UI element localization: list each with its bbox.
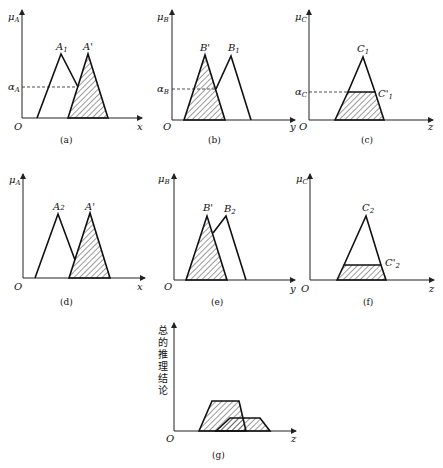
shape2-label: C'2 — [385, 257, 400, 270]
x-axis-label: z — [427, 121, 434, 132]
svg-text:的: 的 — [158, 336, 168, 348]
x-axis-label: z — [428, 283, 435, 294]
y-axis-label: μA — [9, 174, 21, 187]
shape2-label: A' — [82, 41, 93, 52]
x-axis-label: y — [289, 121, 296, 132]
panel-caption: (b) — [208, 135, 221, 145]
hatched-trapezoid-c1-prime — [335, 92, 384, 120]
shape1-label: C2 — [362, 202, 375, 215]
svg-text:总: 总 — [158, 324, 168, 336]
y-axis-label: μB — [157, 11, 169, 24]
origin-label: O — [14, 281, 22, 292]
alpha-label: αB — [157, 83, 169, 96]
shape1-label: A1 — [55, 41, 68, 54]
y-axis-label: μC — [295, 11, 308, 24]
svg-text:结: 结 — [158, 372, 168, 384]
origin-label: O — [166, 433, 174, 444]
alpha-label: αA — [8, 81, 20, 94]
alpha-label: αC — [295, 86, 308, 99]
origin-label: O — [299, 121, 307, 132]
triangle-a2 — [35, 214, 75, 278]
panel-caption: (c) — [361, 135, 373, 145]
panel-c: μC αC C1 C'1 O z (c) — [295, 10, 434, 145]
svg-text:推: 推 — [158, 348, 168, 360]
fuzzy-inference-diagram: μA αA A1 A' O x (a) μB αB B' B1 O y (b) … — [0, 0, 443, 468]
panel-caption: (g) — [212, 450, 225, 460]
origin-label: O — [164, 281, 172, 292]
y-axis-label: μB — [158, 173, 170, 186]
panel-caption: (f) — [363, 297, 373, 307]
shape1-label: A2 — [52, 201, 65, 212]
x-axis-label: z — [290, 433, 297, 444]
panel-b: μB αB B' B1 O y (b) — [157, 10, 296, 145]
origin-label: O — [14, 121, 22, 132]
panel-caption: (d) — [60, 297, 73, 307]
hatched-trapezoid-c2-prime — [337, 265, 386, 280]
x-axis-label: y — [289, 283, 296, 294]
shape1-label: B' — [199, 42, 210, 53]
x-axis-label: x — [137, 281, 143, 292]
panel-f: μC C2 C'2 O z (f) — [296, 173, 435, 307]
panel-g: 总 的 推 理 结 论 O z (g) — [158, 323, 297, 460]
y-axis-label: μA — [8, 11, 20, 24]
panel-caption: (e) — [211, 297, 223, 307]
shape2-label: A' — [84, 201, 95, 212]
shape2-label: B1 — [227, 42, 240, 55]
svg-text:理: 理 — [158, 361, 168, 372]
triangle-c2 — [344, 216, 381, 265]
y-axis-label: μC — [296, 173, 309, 186]
hatched-triangle-a-prime — [69, 213, 110, 278]
x-axis-label: x — [137, 121, 143, 132]
panel-caption: (a) — [60, 135, 72, 145]
panel-e: μB B' B2 O y (e) — [158, 173, 296, 307]
y-axis-label-vertical: 总 的 推 理 结 论 — [158, 324, 168, 396]
triangle-c1 — [348, 57, 375, 92]
shape1-label: C1 — [357, 43, 369, 56]
svg-text:论: 论 — [158, 384, 168, 396]
origin-label: O — [163, 121, 171, 132]
origin-label: O — [301, 283, 309, 294]
shape2-label: C'1 — [378, 88, 393, 101]
hatched-triangle-a-prime — [68, 54, 108, 118]
panel-d: μA A2 A' O x (d) — [9, 174, 145, 307]
panel-a: μA αA A1 A' O x (a) — [8, 10, 143, 145]
hatched-triangle-b-prime — [186, 216, 227, 280]
shape2-label: B2 — [223, 203, 236, 216]
hatched-triangle-b-prime — [184, 55, 225, 120]
shape1-label: B' — [202, 202, 213, 213]
